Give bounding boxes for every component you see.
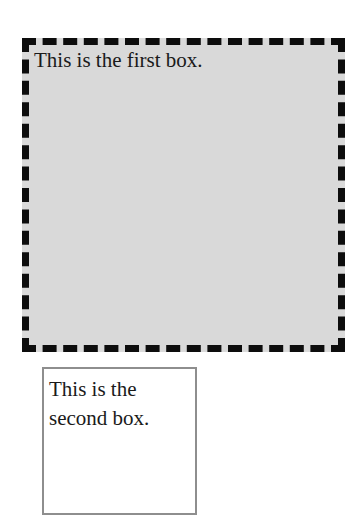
second-box-text: This is the second box.	[49, 377, 149, 430]
second-box: This is the second box.	[42, 367, 197, 515]
first-box: This is the first box.	[22, 38, 345, 352]
first-box-text: This is the first box.	[34, 48, 203, 72]
